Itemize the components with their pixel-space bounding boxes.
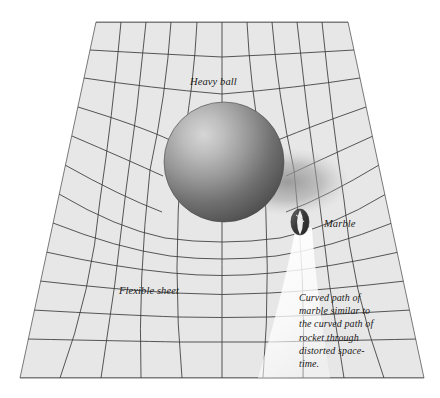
label-flexible-sheet: Flexible sheet — [119, 285, 179, 296]
heavy-ball — [164, 102, 284, 222]
label-heavy-ball: Heavy ball — [190, 76, 237, 87]
caption-line-4: rocket through — [299, 331, 395, 344]
label-marble: Marble — [324, 218, 356, 229]
spacetime-rubber-sheet-figure: Heavy ball Marble Flexible sheet Curved … — [0, 0, 440, 398]
caption-line-1: Curved path of — [299, 291, 395, 304]
caption-line-5: distorted space- — [299, 344, 395, 357]
caption-line-6: time. — [299, 357, 395, 370]
caption-line-2: marble similar to — [299, 304, 395, 317]
caption-line-3: the curved path of — [299, 317, 395, 330]
marble — [291, 209, 309, 235]
caption-curved-path: Curved path of marble similar to the cur… — [299, 291, 395, 370]
